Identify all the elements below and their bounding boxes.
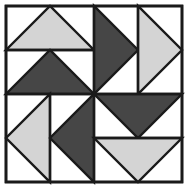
quilt-block-canvas xyxy=(0,0,188,190)
quilt-block-diagram xyxy=(0,0,188,190)
